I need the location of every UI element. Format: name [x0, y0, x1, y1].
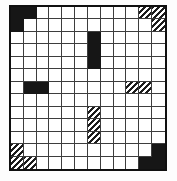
- grid-cell: [126, 157, 139, 169]
- grid-cell: [62, 157, 75, 169]
- grid-cell: [11, 119, 24, 131]
- grid-cell: [101, 57, 114, 69]
- grid-cell: [126, 44, 139, 56]
- grid-cell: [75, 32, 88, 44]
- grid-cell: [49, 132, 62, 144]
- grid-cell: [37, 132, 50, 144]
- hatched-cell: [152, 19, 165, 31]
- grid-cell: [75, 57, 88, 69]
- hatched-cell: [139, 7, 152, 19]
- black-cell: [88, 57, 101, 69]
- hatched-cell: [11, 144, 24, 156]
- grid-cell: [62, 94, 75, 106]
- black-cell: [37, 82, 50, 94]
- grid-cell: [24, 132, 37, 144]
- grid-cell: [101, 119, 114, 131]
- grid-cell: [49, 82, 62, 94]
- hatched-cell: [152, 7, 165, 19]
- grid-cell: [139, 69, 152, 81]
- grid-cell: [101, 132, 114, 144]
- grid-cell: [114, 157, 127, 169]
- grid-cell: [75, 119, 88, 131]
- black-cell: [24, 82, 37, 94]
- grid-cell: [11, 107, 24, 119]
- grid-cell: [88, 157, 101, 169]
- black-cell: [88, 32, 101, 44]
- grid-cell: [114, 44, 127, 56]
- grid-cell: [24, 19, 37, 31]
- grid-cell: [62, 19, 75, 31]
- grid-cell: [62, 82, 75, 94]
- grid-cell: [152, 44, 165, 56]
- grid-cell: [24, 32, 37, 44]
- grid-cell: [126, 119, 139, 131]
- grid-cell: [49, 19, 62, 31]
- grid-cell: [101, 82, 114, 94]
- grid-cell: [62, 32, 75, 44]
- black-cell: [11, 19, 24, 31]
- grid-cell: [11, 44, 24, 56]
- grid-cell: [101, 44, 114, 56]
- grid-cell: [62, 57, 75, 69]
- grid-cell: [101, 107, 114, 119]
- grid-cell: [24, 57, 37, 69]
- grid-cell: [126, 144, 139, 156]
- hatched-cell: [126, 82, 139, 94]
- grid-cell: [24, 94, 37, 106]
- black-cell: [152, 144, 165, 156]
- grid-cell: [101, 7, 114, 19]
- grid-cell: [37, 7, 50, 19]
- grid-cell: [75, 44, 88, 56]
- grid-cell: [88, 7, 101, 19]
- grid-cell: [114, 119, 127, 131]
- grid-cell: [49, 119, 62, 131]
- grid-cell: [37, 32, 50, 44]
- grid-cell: [139, 132, 152, 144]
- grid-cell: [114, 32, 127, 44]
- grid-cell: [49, 107, 62, 119]
- grid-cell: [139, 57, 152, 69]
- grid-cell: [62, 119, 75, 131]
- grid-cell: [37, 157, 50, 169]
- grid-cell: [114, 7, 127, 19]
- grid-cell: [75, 19, 88, 31]
- grid-cell: [139, 144, 152, 156]
- grid-cell: [114, 144, 127, 156]
- hatched-cell: [88, 132, 101, 144]
- grid-cell: [37, 107, 50, 119]
- grid-cell: [62, 107, 75, 119]
- grid-cell: [126, 107, 139, 119]
- grid-cell: [37, 57, 50, 69]
- grid-cell: [75, 82, 88, 94]
- grid-cell: [24, 44, 37, 56]
- hatched-cell: [139, 82, 152, 94]
- grid-cell: [37, 119, 50, 131]
- grid-cell: [75, 144, 88, 156]
- grid-cell: [114, 132, 127, 144]
- grid-cell: [75, 7, 88, 19]
- black-cell: [139, 157, 152, 169]
- grid-cell: [152, 69, 165, 81]
- grid-cell: [49, 57, 62, 69]
- grid-cell: [101, 157, 114, 169]
- grid-cell: [126, 69, 139, 81]
- grid-cell: [139, 107, 152, 119]
- grid-cell: [152, 107, 165, 119]
- grid-cell: [139, 32, 152, 44]
- grid-cell: [75, 157, 88, 169]
- grid-cell: [139, 44, 152, 56]
- black-cell: [152, 157, 165, 169]
- grid-cell: [114, 94, 127, 106]
- grid-cell: [114, 82, 127, 94]
- grid-cell: [114, 107, 127, 119]
- grid-cell: [88, 69, 101, 81]
- grid-cell: [62, 144, 75, 156]
- grid-cell: [101, 69, 114, 81]
- hatched-cell: [11, 157, 24, 169]
- grid-cell: [11, 32, 24, 44]
- grid-cell: [49, 44, 62, 56]
- grid-cell: [126, 19, 139, 31]
- grid-cell: [49, 7, 62, 19]
- grid-cell: [139, 119, 152, 131]
- grid-cell: [152, 82, 165, 94]
